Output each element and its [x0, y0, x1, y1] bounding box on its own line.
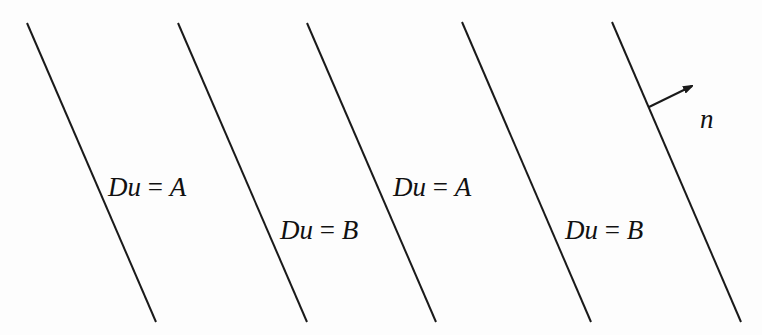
diagram-svg: n Du = ADu = BDu = ADu = B	[0, 0, 762, 335]
boundary-line-2	[178, 23, 307, 322]
region-label-4: Du = B	[564, 215, 643, 245]
boundary-line-4	[462, 22, 591, 322]
region-label-3: Du = A	[392, 172, 472, 202]
normal-vector-arrow	[649, 86, 692, 107]
normal-vector-label: n	[700, 104, 714, 134]
boundary-line-5	[612, 22, 741, 322]
diagram-canvas: n Du = ADu = BDu = ADu = B	[0, 0, 762, 335]
region-label-1: Du = A	[107, 172, 187, 202]
region-label-2: Du = B	[279, 215, 358, 245]
